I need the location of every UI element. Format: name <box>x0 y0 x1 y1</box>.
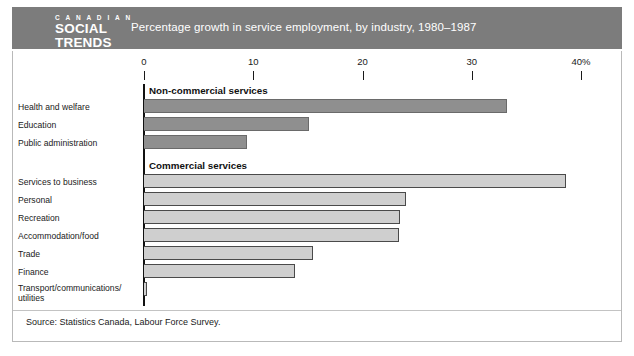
chart-title: Percentage growth in service employment,… <box>131 21 477 33</box>
x-tick-mark <box>363 71 364 80</box>
category-label: Accommodation/food <box>18 231 99 241</box>
category-label: Health and welfare <box>18 102 90 112</box>
header-band: C A N A D I A N SOCIAL TRENDS Percentage… <box>12 7 622 49</box>
chart-panel: 010203040% Non-commercial servicesHealth… <box>12 51 622 342</box>
bar <box>144 174 566 188</box>
x-tick-label: 20 <box>357 56 368 67</box>
x-tick-mark <box>253 71 254 80</box>
x-tick-mark <box>144 71 145 80</box>
source-note: Source: Statistics Canada, Labour Force … <box>26 317 220 327</box>
bar <box>144 282 147 296</box>
group-title: Non-commercial services <box>149 85 268 96</box>
plot-area: Non-commercial servicesHealth and welfar… <box>13 84 621 304</box>
x-tick-mark <box>581 71 582 80</box>
x-tick-label: 0 <box>141 56 146 67</box>
category-label: Education <box>18 120 56 130</box>
x-tick-label: 30 <box>466 56 477 67</box>
category-label: Personal <box>18 195 52 205</box>
x-axis: 010203040% <box>13 51 621 84</box>
brand-line-trends: TRENDS <box>55 36 151 49</box>
group-title: Commercial services <box>149 160 247 171</box>
x-tick-mark <box>472 71 473 80</box>
bar <box>144 246 313 260</box>
category-label: Transport/communications/utilities <box>18 283 121 303</box>
chart-page: C A N A D I A N SOCIAL TRENDS Percentage… <box>0 0 634 356</box>
x-tick-label: 40% <box>571 56 590 67</box>
bar <box>144 264 295 278</box>
category-label: Finance <box>18 267 49 277</box>
category-label: Services to business <box>18 177 97 187</box>
category-label: Recreation <box>18 213 60 223</box>
x-tick-label: 10 <box>248 56 259 67</box>
bar <box>144 228 399 242</box>
bar <box>144 210 400 224</box>
category-label: Trade <box>18 249 40 259</box>
bar <box>144 99 507 113</box>
bar <box>144 192 406 206</box>
bar <box>144 135 247 149</box>
footer-divider <box>13 310 621 311</box>
bar <box>144 117 309 131</box>
category-label: Public administration <box>18 138 97 148</box>
